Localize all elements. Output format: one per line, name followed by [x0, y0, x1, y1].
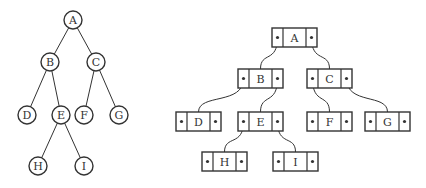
tree-node-B: B: [41, 53, 59, 71]
linked-nodes: ABCDEFGHI: [176, 28, 410, 171]
tree-edge-C-F: [86, 71, 94, 106]
right-pointer-dot-icon: [403, 120, 406, 123]
tree-edge-A-B: [54, 28, 68, 54]
linked-node-E: E: [238, 112, 283, 131]
tree-node-H: H: [29, 157, 47, 175]
node-label: C: [325, 73, 333, 86]
node-label: G: [115, 109, 124, 122]
tree-node-F: F: [75, 106, 93, 124]
node-label: C: [92, 56, 100, 69]
node-label: B: [46, 56, 54, 69]
pointer-B-left-D: [199, 79, 244, 113]
right-pointer-dot-icon: [311, 160, 314, 163]
tree-node-A: A: [64, 11, 82, 29]
tree-node-D: D: [18, 106, 36, 124]
left-pointer-dot-icon: [276, 36, 279, 39]
node-label: G: [383, 116, 392, 129]
right-pointer-dot-icon: [345, 120, 348, 123]
left-pointer-dot-icon: [180, 120, 183, 123]
node-label: D: [23, 109, 32, 122]
left-pointer-dot-icon: [206, 160, 209, 163]
node-label: I: [82, 160, 86, 173]
left-pointer-dot-icon: [242, 77, 245, 80]
tree-edge-B-D: [31, 70, 47, 106]
linked-node-H: H: [202, 152, 247, 171]
tree-node-C: C: [87, 53, 105, 71]
tree-edge-C-G: [100, 70, 116, 106]
diagram-canvas: ABCDEFGHI ABCDEFGHI: [0, 0, 426, 188]
linked-node-A: A: [272, 28, 317, 47]
node-label: D: [194, 116, 203, 129]
left-pointer-dot-icon: [277, 160, 280, 163]
right-pointer-dot-icon: [276, 77, 279, 80]
tree-node-I: I: [75, 157, 93, 175]
left-pointer-dot-icon: [311, 77, 314, 80]
node-label: B: [256, 73, 264, 86]
node-label: E: [256, 116, 264, 129]
right-pointer-dot-icon: [310, 36, 313, 39]
tree-edges: [31, 28, 116, 158]
left-pointer-dot-icon: [311, 120, 314, 123]
right-pointer-dot-icon: [345, 77, 348, 80]
linked-node-G: G: [365, 112, 410, 131]
node-label: E: [57, 109, 65, 122]
node-label: H: [33, 160, 43, 173]
tree-node-E: E: [52, 106, 70, 124]
right-pointer-dot-icon: [214, 120, 217, 123]
left-pointer-dot-icon: [369, 120, 372, 123]
linked-node-I: I: [273, 152, 318, 171]
linked-node-F: F: [307, 112, 352, 131]
left-pointer-dot-icon: [242, 120, 245, 123]
right-pointer-dot-icon: [276, 120, 279, 123]
tree-edge-E-H: [42, 123, 58, 158]
tree-edge-B-E: [52, 71, 59, 106]
tree-node-G: G: [110, 106, 128, 124]
linked-edges: [199, 38, 388, 153]
tree-nodes: ABCDEFGHI: [18, 11, 128, 175]
linked-node-B: B: [238, 69, 283, 88]
node-label: A: [290, 32, 300, 45]
node-label: F: [80, 109, 88, 122]
node-label: A: [68, 14, 78, 27]
linked-node-D: D: [176, 112, 221, 131]
node-label: I: [293, 156, 297, 169]
node-label: H: [220, 156, 230, 169]
tree-edge-A-C: [77, 28, 91, 54]
node-label: F: [326, 116, 334, 129]
right-pointer-dot-icon: [240, 160, 243, 163]
tree-edge-E-I: [65, 123, 81, 158]
linked-node-C: C: [307, 69, 352, 88]
